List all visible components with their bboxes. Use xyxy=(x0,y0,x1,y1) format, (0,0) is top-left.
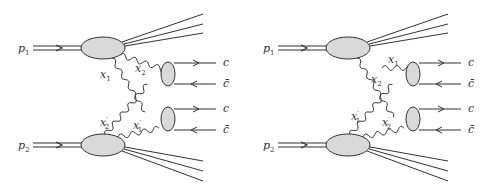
label-p2: p2 xyxy=(263,139,275,154)
label-x2-prime: x′2 xyxy=(100,116,109,131)
label-x1: x1 xyxy=(100,68,111,83)
hard-blob-lower xyxy=(406,107,420,131)
label-cbar-1: c̄ xyxy=(468,77,475,90)
gluon-lines xyxy=(343,57,411,139)
label-cbar-2: c̄ xyxy=(468,123,475,136)
label-p2: p2 xyxy=(18,139,30,154)
diagram-left: p1 p2 xyxy=(18,14,230,181)
label-p1: p1 xyxy=(263,42,275,57)
proton-blob-2 xyxy=(326,134,370,156)
label-x2-prime: x′2 xyxy=(382,116,391,131)
jets-upper xyxy=(122,14,203,46)
label-x1-prime: x′1 xyxy=(133,119,142,134)
label-c-1: c xyxy=(223,56,229,69)
label-x2: x2 xyxy=(135,62,146,77)
label-p1: p1 xyxy=(18,42,30,57)
diagram-right: p1 p2 xyxy=(263,14,475,181)
hard-blob-upper xyxy=(161,62,175,86)
incoming-proton-1: p1 xyxy=(263,42,327,57)
label-cbar-2: c̄ xyxy=(223,123,230,136)
proton-blob-1 xyxy=(81,37,125,59)
proton-blob-1 xyxy=(326,37,370,59)
label-c-2: c xyxy=(223,102,229,115)
label-x2: x2 xyxy=(371,73,382,88)
label-c-1: c xyxy=(468,56,474,69)
jets-lower xyxy=(367,147,448,181)
outgoing-quarks xyxy=(419,60,461,133)
proton-blob-2 xyxy=(81,134,125,156)
outgoing-quarks xyxy=(174,60,216,133)
incoming-proton-2: p2 xyxy=(263,139,327,154)
label-x1: x1 xyxy=(388,53,399,68)
label-cbar-1: c̄ xyxy=(223,77,230,90)
hard-blob-lower xyxy=(161,107,175,131)
incoming-proton-2: p2 xyxy=(18,139,82,154)
jets-lower xyxy=(122,147,203,181)
jets-upper xyxy=(367,14,448,46)
label-c-2: c xyxy=(468,102,474,115)
incoming-proton-1: p1 xyxy=(18,42,82,57)
hard-blob-upper xyxy=(406,62,420,86)
label-x1-prime: x′1 xyxy=(351,110,360,125)
feynman-diagrams: p1 p2 xyxy=(0,0,487,193)
